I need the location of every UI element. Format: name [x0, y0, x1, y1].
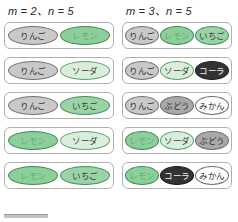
- item-pill: ソーダ: [60, 61, 110, 80]
- basket-row: りんご ソーダ コーラ: [122, 57, 232, 84]
- item-pill: レモン: [8, 166, 58, 185]
- item-pill: いちご: [60, 166, 110, 185]
- item-pill: レモン: [125, 166, 159, 185]
- basket-row: りんご レモン いちご: [122, 22, 232, 49]
- item-pill: ぶどう: [160, 96, 194, 115]
- item-pill: レモン: [60, 26, 110, 45]
- item-pill: レモン: [8, 131, 58, 150]
- item-pill: レモン: [160, 26, 194, 45]
- column-m3: m = 3、n = 5 りんご レモン いちご りんご ソーダ コーラ りんご …: [122, 0, 232, 197]
- item-pill: みかん: [195, 166, 229, 185]
- column-heading-m3: m = 3、n = 5: [122, 0, 232, 22]
- item-pill: コーラ: [160, 166, 194, 185]
- item-pill: りんご: [125, 26, 159, 45]
- column-heading-m2: m = 2、n = 5: [4, 0, 114, 22]
- item-pill: りんご: [125, 61, 159, 80]
- basket-row: りんご レモン: [4, 22, 114, 49]
- basket-row: レモン ソーダ: [4, 127, 114, 154]
- item-pill: ソーダ: [60, 131, 110, 150]
- basket-row: りんご いちご: [4, 92, 114, 119]
- itemset-figure: m = 2、n = 5 りんご レモン りんご ソーダ りんご いちご レモン …: [0, 0, 238, 222]
- item-pill: コーラ: [195, 61, 229, 80]
- item-pill: りんご: [8, 96, 58, 115]
- item-pill: みかん: [195, 96, 229, 115]
- basket-row: りんご ぶどう みかん: [122, 92, 232, 119]
- item-pill: いちご: [195, 26, 229, 45]
- item-pill: いちご: [60, 96, 110, 115]
- bottom-edge-artifact: [4, 214, 48, 218]
- basket-row: りんご ソーダ: [4, 57, 114, 84]
- basket-row: レモン コーラ みかん: [122, 162, 232, 189]
- item-pill: ソーダ: [160, 131, 194, 150]
- item-pill: りんご: [8, 61, 58, 80]
- column-m2: m = 2、n = 5 りんご レモン りんご ソーダ りんご いちご レモン …: [4, 0, 114, 197]
- basket-row: レモン いちご: [4, 162, 114, 189]
- item-pill: りんご: [8, 26, 58, 45]
- columns-container: m = 2、n = 5 りんご レモン りんご ソーダ りんご いちご レモン …: [0, 0, 238, 197]
- item-pill: ぶどう: [195, 131, 229, 150]
- item-pill: レモン: [125, 131, 159, 150]
- basket-row: レモン ソーダ ぶどう: [122, 127, 232, 154]
- item-pill: りんご: [125, 96, 159, 115]
- item-pill: ソーダ: [160, 61, 194, 80]
